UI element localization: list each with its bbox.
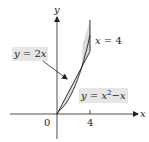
region-diagram: y x 0 4 y = 2x x = 4 y = x2−x — [0, 0, 149, 142]
label-parabola: y = x2−x — [80, 89, 126, 101]
origin-label: 0 — [44, 117, 50, 128]
line-y-equals-2x — [57, 51, 90, 114]
label-pointer-arrow — [43, 61, 67, 79]
label-vertical: x = 4 — [95, 35, 122, 46]
x-axis-label: x — [140, 108, 146, 119]
x-tick-label-4: 4 — [87, 117, 93, 128]
y-axis-label: y — [53, 4, 60, 15]
label-line: y = 2x — [13, 48, 47, 59]
